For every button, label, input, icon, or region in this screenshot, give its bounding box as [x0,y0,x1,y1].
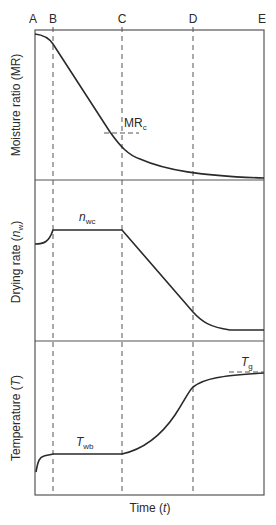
moisture-ratio-axis-label: Moisture ratio (MR) [9,54,23,157]
mrc-label: MRc [124,116,147,132]
moisture-ratio-curve [35,34,264,178]
nwc-label: nwc [79,210,95,226]
temperature-axis-label: Temperature (T) [9,375,23,461]
marker-e: E [258,12,266,26]
marker-c: C [118,12,127,26]
marker-a: A [29,12,37,26]
drying-rate-axis-label: Drying rate (nw) [9,221,25,304]
temperature-curve [36,373,264,472]
phase-dividers [53,27,193,495]
drying-diagram: A B C D E MRc Moisture ratio (MR) nwc Dr… [0,0,276,525]
twb-label: Twb [76,435,94,451]
drying-rate-curve [35,230,264,330]
marker-b: B [49,12,57,26]
tg-label: Tg [241,355,253,371]
time-axis-label: Time (t) [130,501,171,515]
marker-d: D [189,12,198,26]
